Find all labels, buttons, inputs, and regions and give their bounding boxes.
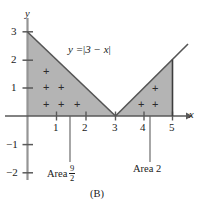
fraction-denominator: 2 — [69, 174, 75, 183]
plus-marker: + — [138, 99, 144, 110]
equation-inner: 3 − x — [85, 43, 108, 55]
y-tick-label-2: 2 — [11, 54, 17, 65]
plus-marker: + — [152, 83, 158, 94]
x-tick-label-5: 5 — [169, 122, 175, 133]
figure-panel-b: + + + + + + + + + y x 3 2 1 −1 −2 1 2 3 … — [0, 0, 199, 209]
plot-canvas — [0, 0, 199, 209]
area-label-left-text: Area — [47, 168, 67, 179]
x-axis-name: x — [189, 110, 194, 121]
figure-caption: (B) — [90, 189, 104, 200]
fraction-nine-halves: 9 2 — [69, 164, 75, 182]
area-label-right: Area 2 — [133, 164, 161, 175]
x-tick-label-1: 1 — [53, 122, 59, 133]
x-tick-label-4: 4 — [140, 122, 146, 133]
y-axis-name: y — [25, 9, 30, 20]
plus-marker: + — [58, 99, 64, 110]
plus-marker: + — [58, 82, 64, 93]
x-tick-label-2: 2 — [82, 122, 88, 133]
equation-lhs: y = — [68, 43, 83, 55]
equation-label: y =|3 − x| — [68, 44, 111, 55]
y-tick-label-minus1: −1 — [6, 139, 18, 150]
plus-marker: + — [43, 66, 49, 77]
y-tick-label-minus2: −2 — [6, 167, 18, 178]
plus-marker: + — [74, 99, 80, 110]
plus-marker: + — [152, 99, 158, 110]
area-label-left: Area 9 2 — [47, 164, 75, 182]
y-tick-label-1: 1 — [11, 82, 17, 93]
plus-marker: + — [43, 82, 49, 93]
x-tick-label-3: 3 — [112, 122, 118, 133]
plus-marker: + — [43, 99, 49, 110]
y-tick-label-3: 3 — [11, 26, 17, 37]
abs-bar-close: | — [109, 43, 111, 55]
